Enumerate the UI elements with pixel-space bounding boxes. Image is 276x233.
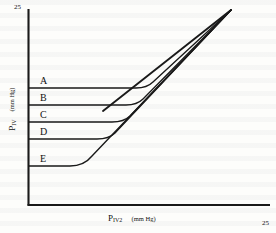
- curve-label-a: A: [40, 75, 47, 86]
- chart-figure: 25 25 A B C D E PIV2 (mm Hg) PIV (mm Hg): [0, 0, 276, 233]
- x-axis-max-tick-label: 25: [262, 219, 269, 227]
- curve-label-d: D: [40, 126, 47, 137]
- line-of-identity: [103, 10, 231, 111]
- y-axis-units: (mm Hg): [8, 80, 15, 120]
- curve-label-e: E: [40, 153, 46, 164]
- x-axis-title-units: (mm Hg): [132, 215, 156, 222]
- curve-label-c: C: [40, 109, 47, 120]
- y-axis-max-tick-label: 25: [14, 3, 21, 11]
- y-axis-title-symbol: P: [7, 126, 17, 131]
- curve-a: [29, 10, 231, 88]
- curve-d: [29, 10, 231, 139]
- x-axis-title: PIV2 (mm Hg): [108, 213, 156, 223]
- curve-label-b: B: [40, 92, 47, 103]
- x-axis-title-subscript: IV2: [113, 217, 122, 223]
- y-axis-title-subscript: IV: [11, 119, 17, 125]
